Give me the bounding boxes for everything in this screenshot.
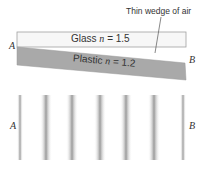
fringe-pattern: [17, 95, 186, 160]
glass-label: Glass n = 1.5: [71, 33, 130, 44]
air-wedge-callout: Thin wedge of air: [126, 6, 191, 16]
point-b-bottom: B: [189, 120, 195, 131]
point-b-top: B: [189, 54, 195, 65]
wedge-diagram: [0, 0, 203, 172]
point-a-bottom: A: [10, 120, 16, 131]
point-a-top: A: [9, 40, 15, 51]
